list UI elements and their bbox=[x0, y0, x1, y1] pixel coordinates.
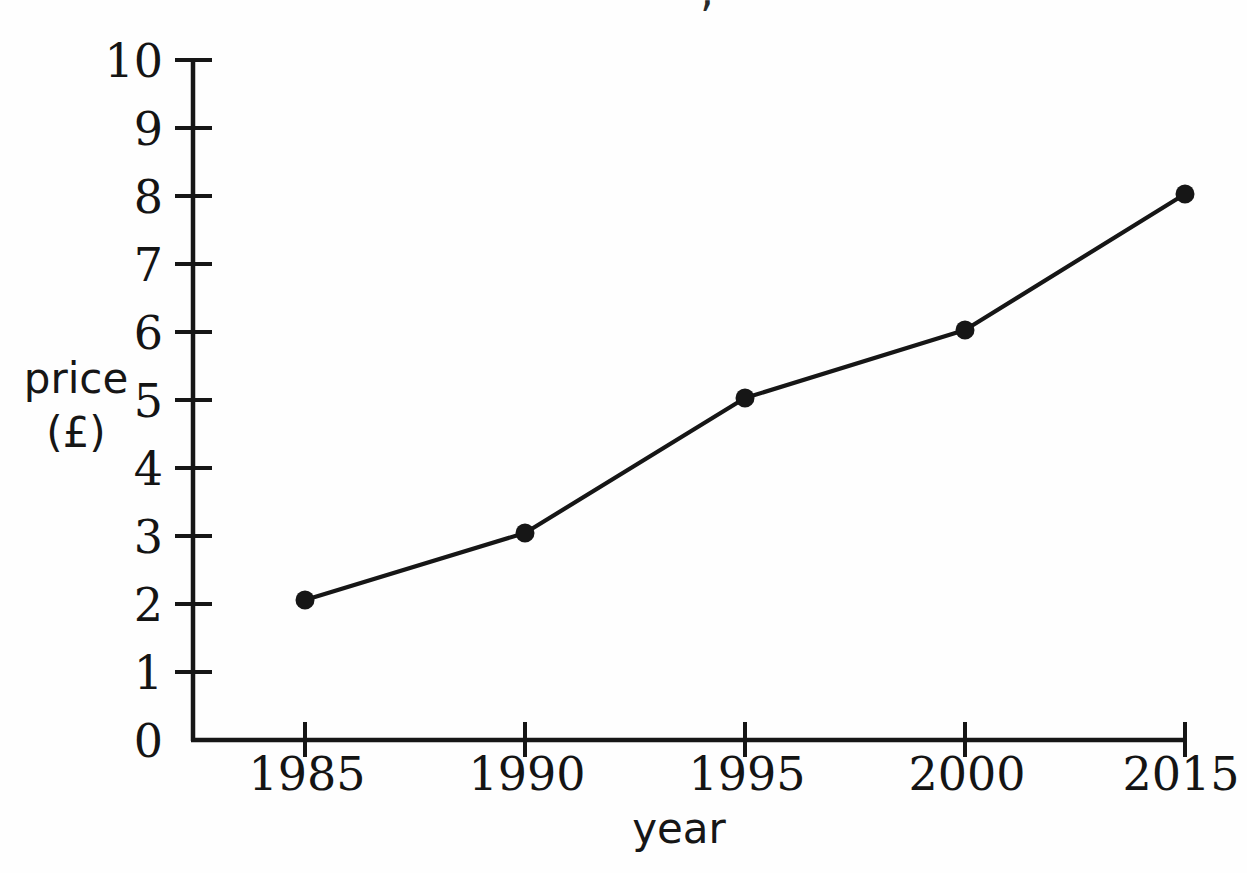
x-tick-label-1990: 1990 bbox=[468, 747, 585, 801]
y-axis-title: price (£) bbox=[24, 354, 129, 457]
x-tick-label-2000: 2000 bbox=[908, 747, 1025, 801]
y-tick-label-3: 3 bbox=[134, 510, 163, 564]
data-series-price bbox=[296, 185, 1195, 610]
x-axis-title: year bbox=[632, 804, 726, 853]
data-point-1985 bbox=[296, 591, 315, 610]
y-tick-label-8: 8 bbox=[134, 170, 163, 224]
y-axis-title-line2: (£) bbox=[46, 408, 106, 457]
x-tick-label-2015: 2015 bbox=[1122, 747, 1239, 801]
clipped-title-fragment: , bbox=[700, 0, 714, 16]
x-axis-tick-labels: 1985 1990 1995 2000 2015 bbox=[248, 747, 1239, 801]
data-point-1995 bbox=[736, 389, 755, 408]
y-axis-title-line1: price bbox=[24, 354, 129, 403]
y-tick-label-4: 4 bbox=[134, 442, 163, 496]
y-tick-label-0: 0 bbox=[134, 714, 163, 768]
data-point-2000 bbox=[956, 321, 975, 340]
chart-canvas: , 10 9 8 7 6 5 bbox=[0, 0, 1247, 873]
y-tick-label-1: 1 bbox=[134, 646, 163, 700]
x-tick-label-1985: 1985 bbox=[248, 747, 365, 801]
y-tick-label-2: 2 bbox=[134, 578, 163, 632]
y-tick-label-6: 6 bbox=[134, 306, 163, 360]
x-tick-label-1995: 1995 bbox=[688, 747, 805, 801]
axis-group bbox=[191, 60, 1185, 741]
y-tick-label-7: 7 bbox=[134, 238, 163, 292]
y-tick-label-9: 9 bbox=[134, 102, 163, 156]
data-point-2015 bbox=[1176, 185, 1195, 204]
y-tick-label-10: 10 bbox=[104, 34, 163, 88]
clipped-title-text: , bbox=[700, 0, 714, 16]
line-chart: , 10 9 8 7 6 5 bbox=[0, 0, 1247, 873]
y-tick-label-5: 5 bbox=[134, 374, 163, 428]
data-point-1990 bbox=[516, 524, 535, 543]
